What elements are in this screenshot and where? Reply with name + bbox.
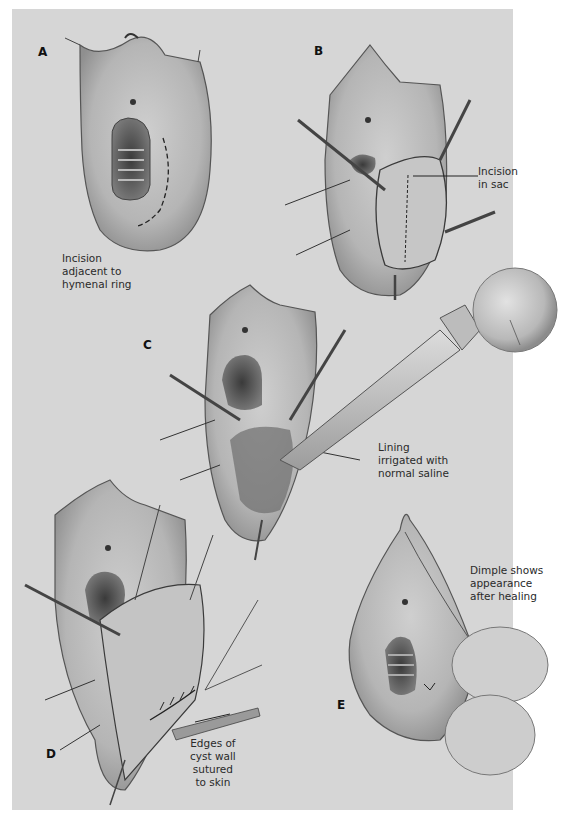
- panel-c-label: C: [143, 338, 152, 352]
- panel-e-label: E: [337, 698, 345, 712]
- panel-c-caption: Lining irrigated with normal saline: [378, 441, 449, 480]
- panel-b-caption: Incision in sac: [478, 165, 518, 191]
- surgical-illustration: [0, 0, 582, 830]
- panel-d-caption: Edges of cyst wall sutured to skin: [190, 737, 236, 789]
- panel-d-label: D: [46, 747, 56, 761]
- panel-a-caption: Incision adjacent to hymenal ring: [62, 252, 131, 291]
- panel-e-caption: Dimple shows appearance after healing: [470, 564, 543, 603]
- panel-b-label: B: [314, 44, 323, 58]
- panel-a-label: A: [38, 45, 47, 59]
